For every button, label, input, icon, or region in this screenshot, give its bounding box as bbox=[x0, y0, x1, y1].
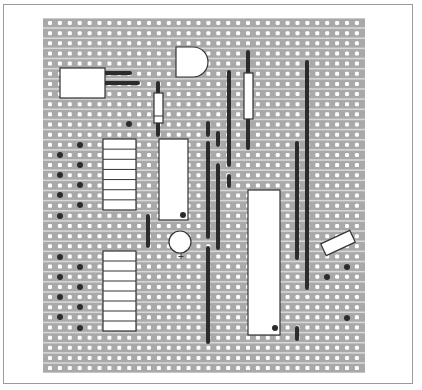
hole bbox=[286, 305, 290, 309]
hole bbox=[147, 183, 151, 187]
hole bbox=[315, 254, 319, 258]
hole bbox=[315, 92, 319, 96]
hole bbox=[147, 254, 151, 258]
hole bbox=[325, 143, 329, 147]
hole bbox=[305, 21, 309, 25]
hole bbox=[256, 102, 260, 106]
hole bbox=[246, 41, 250, 45]
hole bbox=[236, 214, 240, 218]
hole bbox=[48, 305, 52, 309]
header-upper bbox=[103, 139, 136, 210]
hole bbox=[88, 123, 92, 127]
hole bbox=[88, 326, 92, 330]
hole bbox=[127, 102, 131, 106]
hole bbox=[167, 62, 171, 66]
hole bbox=[68, 254, 72, 258]
hole bbox=[345, 305, 349, 309]
hole bbox=[266, 173, 270, 177]
track-cut bbox=[77, 284, 83, 290]
hole bbox=[98, 366, 102, 370]
ic-small-body bbox=[159, 139, 188, 220]
hole bbox=[48, 194, 52, 198]
hole bbox=[296, 133, 300, 137]
hole bbox=[177, 41, 181, 45]
hole bbox=[197, 194, 201, 198]
hole bbox=[167, 72, 171, 76]
hole bbox=[88, 21, 92, 25]
hole bbox=[197, 254, 201, 258]
hole bbox=[236, 326, 240, 330]
hole bbox=[147, 285, 151, 289]
hole bbox=[117, 21, 121, 25]
hole bbox=[98, 315, 102, 319]
hole bbox=[286, 82, 290, 86]
hole bbox=[276, 346, 280, 350]
hole bbox=[296, 51, 300, 55]
hole bbox=[206, 72, 210, 76]
hole bbox=[78, 275, 82, 279]
hole bbox=[315, 123, 319, 127]
hole bbox=[236, 21, 240, 25]
hole bbox=[286, 346, 290, 350]
hole bbox=[315, 183, 319, 187]
track-cut bbox=[77, 325, 83, 331]
track-cut bbox=[57, 172, 63, 178]
hole bbox=[325, 336, 329, 340]
hole bbox=[137, 143, 141, 147]
hole bbox=[48, 92, 52, 96]
hole bbox=[197, 366, 201, 370]
hole bbox=[286, 183, 290, 187]
hole bbox=[58, 102, 62, 106]
hole bbox=[68, 224, 72, 228]
hole bbox=[88, 173, 92, 177]
hole bbox=[177, 265, 181, 269]
hole bbox=[355, 336, 359, 340]
hole bbox=[78, 254, 82, 258]
hole bbox=[325, 92, 329, 96]
hole bbox=[216, 356, 220, 360]
hole bbox=[187, 295, 191, 299]
hole bbox=[157, 51, 161, 55]
hole bbox=[197, 326, 201, 330]
hole bbox=[236, 51, 240, 55]
hole bbox=[68, 51, 72, 55]
hole bbox=[236, 204, 240, 208]
hole bbox=[345, 153, 349, 157]
hole bbox=[355, 326, 359, 330]
hole bbox=[236, 153, 240, 157]
hole bbox=[48, 123, 52, 127]
hole bbox=[177, 326, 181, 330]
hole bbox=[68, 305, 72, 309]
hole bbox=[197, 123, 201, 127]
hole bbox=[226, 275, 230, 279]
hole bbox=[286, 366, 290, 370]
track-cut bbox=[344, 264, 350, 270]
hole bbox=[98, 234, 102, 238]
hole bbox=[197, 356, 201, 360]
hole bbox=[206, 356, 210, 360]
hole bbox=[117, 102, 121, 106]
hole bbox=[167, 31, 171, 35]
hole bbox=[117, 356, 121, 360]
hole bbox=[157, 366, 161, 370]
hole bbox=[216, 62, 220, 66]
hole bbox=[256, 82, 260, 86]
hole bbox=[325, 366, 329, 370]
hole bbox=[286, 112, 290, 116]
track-cut bbox=[57, 152, 63, 158]
hole bbox=[98, 183, 102, 187]
hole bbox=[296, 346, 300, 350]
hole bbox=[266, 51, 270, 55]
hole bbox=[107, 366, 111, 370]
hole bbox=[236, 133, 240, 137]
track-cut bbox=[77, 202, 83, 208]
hole bbox=[315, 143, 319, 147]
hole bbox=[127, 244, 131, 248]
hole bbox=[117, 123, 121, 127]
hole bbox=[315, 305, 319, 309]
hole bbox=[296, 123, 300, 127]
hole bbox=[355, 366, 359, 370]
hole bbox=[197, 133, 201, 137]
hole bbox=[335, 265, 339, 269]
hole bbox=[315, 62, 319, 66]
